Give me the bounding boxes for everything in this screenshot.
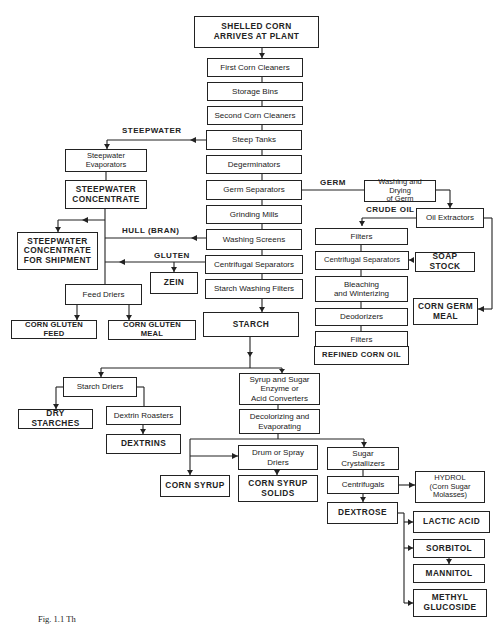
edge-label-gluten: GLUTEN xyxy=(154,251,190,260)
node-deodorizers[interactable]: Deodorizers xyxy=(315,308,408,326)
node-washing-drying-germ[interactable]: Washing and Drying of Germ xyxy=(364,180,436,202)
arrow-head xyxy=(190,137,196,143)
arrow-head xyxy=(119,259,125,265)
node-sorbitol[interactable]: SORBITOL xyxy=(413,539,485,558)
node-oil-centrifugal-separators[interactable]: Centrifugal Separators xyxy=(315,251,409,270)
node-corn-gluten-feed[interactable]: CORN GLUTEN FEED xyxy=(11,320,97,339)
node-oil-filters-1[interactable]: Filters xyxy=(315,228,408,245)
arrow-head xyxy=(191,235,197,241)
node-centrifugal-separators[interactable]: Centrifugal Separators xyxy=(205,255,303,274)
node-germ-separators[interactable]: Germ Separators xyxy=(206,180,302,200)
node-centrifugals[interactable]: Centrifugals xyxy=(327,476,399,494)
arrow-head xyxy=(247,352,253,357)
node-mannitol[interactable]: MANNITOL xyxy=(413,564,485,583)
node-steep-tanks[interactable]: Steep Tanks xyxy=(206,130,302,150)
node-steepwater-concentrate-shipment[interactable]: STEEPWATER CONCENTRATE FOR SHIPMENT xyxy=(17,232,98,270)
node-grinding-mills[interactable]: Grinding Mills xyxy=(206,205,302,224)
arrow-head xyxy=(409,257,414,263)
edge-label-germ: GERM xyxy=(320,178,346,187)
node-washing-screens[interactable]: Washing Screens xyxy=(206,229,302,250)
node-syrup-sugar-converters[interactable]: Syrup and Sugar Enzyme or Acid Converter… xyxy=(239,373,320,405)
node-dextrose[interactable]: DEXTROSE xyxy=(327,502,398,524)
node-starch[interactable]: STARCH xyxy=(203,312,299,337)
node-drum-spray-driers[interactable]: Drum or Spray Driers xyxy=(238,445,318,470)
node-first-corn-cleaners[interactable]: First Corn Cleaners xyxy=(207,58,303,77)
node-refined-corn-oil[interactable]: REFINED CORN OIL xyxy=(314,346,409,365)
arrow-head xyxy=(359,221,365,226)
node-feed-driers[interactable]: Feed Driers xyxy=(65,284,142,305)
node-steepwater-evaporators[interactable]: Steepwater Evaporators xyxy=(65,149,147,172)
node-zein[interactable]: ZEIN xyxy=(150,272,198,294)
node-starch-washing-filters[interactable]: Starch Washing Filters xyxy=(205,279,303,299)
node-starch-driers[interactable]: Starch Driers xyxy=(63,377,137,397)
node-oil-extractors[interactable]: Oil Extractors xyxy=(416,208,484,228)
node-lactic-acid[interactable]: LACTIC ACID xyxy=(413,511,490,533)
figure-caption: Fig. 1.1 Th xyxy=(38,614,76,624)
edge-label-crude-oil: CRUDE OIL xyxy=(366,205,415,214)
node-degerminators[interactable]: Degerminators xyxy=(206,155,302,174)
node-dry-starches[interactable]: DRY STARCHES xyxy=(18,409,93,429)
node-hydrol[interactable]: HYDROL (Corn Sugar Molasses) xyxy=(415,471,485,503)
node-corn-syrup-solids[interactable]: CORN SYRUP SOLIDS xyxy=(238,475,318,502)
arrow-head xyxy=(82,217,88,223)
edge-label-hull-bran: HULL (BRAN) xyxy=(122,226,179,235)
node-storage-bins[interactable]: Storage Bins xyxy=(207,82,303,101)
node-soap-stock[interactable]: SOAP STOCK xyxy=(415,252,475,272)
node-sugar-crystallizers[interactable]: Sugar Crystallizers xyxy=(327,447,399,470)
node-decolorizing-evaporating[interactable]: Decolorizing and Evaporating xyxy=(239,409,320,434)
node-steepwater-concentrate[interactable]: STEEPWATER CONCENTRATE xyxy=(65,180,147,209)
node-corn-syrup[interactable]: CORN SYRUP xyxy=(160,475,230,497)
node-methyl-glucoside[interactable]: METHYL GLUCOSIDE xyxy=(413,589,487,617)
node-second-corn-cleaners[interactable]: Second Corn Cleaners xyxy=(207,106,303,125)
node-dextrin-roasters[interactable]: Dextrin Roasters xyxy=(106,406,181,425)
node-shelled-corn[interactable]: SHELLED CORN ARRIVES AT PLANT xyxy=(194,16,319,48)
node-corn-gluten-meal[interactable]: CORN GLUTEN MEAL xyxy=(108,320,196,340)
arrow-head xyxy=(478,306,484,312)
node-bleaching-winterizing[interactable]: Bleaching and Winterizing xyxy=(315,276,408,302)
edge-label-steepwater: STEEPWATER xyxy=(122,126,182,135)
node-dextrins[interactable]: DEXTRINS xyxy=(106,434,181,454)
node-corn-germ-meal[interactable]: CORN GERM MEAL xyxy=(413,298,478,325)
